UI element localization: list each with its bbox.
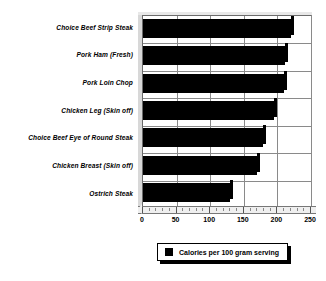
x-axis-minor-tick (256, 208, 257, 211)
x-axis-tick-label: 100 (203, 216, 215, 223)
x-axis-minor-tick (169, 208, 170, 211)
x-axis-tick-label: 200 (271, 216, 283, 223)
x-axis-minor-tick (196, 208, 197, 211)
x-axis-minor-tick (270, 208, 271, 211)
x-axis-tick-label: 250 (304, 216, 316, 223)
bar (143, 156, 257, 175)
plot-area-wrapper (138, 12, 316, 212)
x-axis-minor-tick (149, 208, 150, 211)
plot-area (142, 15, 312, 209)
category-label: Choice Beef Strip Steak (0, 14, 137, 42)
x-axis-minor-tick (263, 208, 264, 211)
bar-series (143, 16, 311, 208)
gridline (311, 16, 312, 208)
category-label: Ostrich Steak (0, 180, 137, 208)
category-label: Chicken Leg (Skin off) (0, 97, 137, 125)
category-label: Chicken Breast (Skin off) (0, 153, 137, 181)
x-axis-tick (176, 207, 177, 213)
x-axis-minor-tick (216, 208, 217, 211)
x-axis-minor-tick (202, 208, 203, 211)
bar (143, 101, 274, 120)
category-label: Pork Loin Chop (0, 69, 137, 97)
bar (143, 128, 263, 147)
x-axis-minor-tick (290, 208, 291, 211)
x-axis-minor-tick (155, 208, 156, 211)
bar (143, 183, 230, 202)
bar-chart: Choice Beef Strip Steak Pork Ham (Fresh)… (0, 0, 326, 281)
x-axis-minor-tick (250, 208, 251, 211)
x-axis-tick (243, 207, 244, 213)
legend-label: Calories per 100 gram serving (179, 249, 279, 256)
x-axis-minor-tick (162, 208, 163, 211)
x-axis-minor-tick (229, 208, 230, 211)
bar (143, 19, 291, 38)
x-axis-tick (142, 207, 143, 213)
category-label: Pork Ham (Fresh) (0, 42, 137, 70)
x-axis-tick-label: 0 (140, 216, 144, 223)
x-axis-minor-tick (303, 208, 304, 211)
category-label: Choice Beef Eye of Round Steak (0, 125, 137, 153)
x-axis-tick (209, 207, 210, 213)
legend-swatch-icon (165, 248, 173, 256)
x-axis-tick-label: 50 (172, 216, 180, 223)
bar (143, 46, 285, 65)
x-axis-minor-tick (297, 208, 298, 211)
x-axis-minor-tick (182, 208, 183, 211)
x-axis-minor-tick (223, 208, 224, 211)
x-axis-minor-tick (236, 208, 237, 211)
x-axis-tick (276, 207, 277, 213)
category-axis-labels: Choice Beef Strip Steak Pork Ham (Fresh)… (0, 14, 137, 208)
x-axis-tick-labels: 050100150200250 (138, 216, 323, 228)
x-axis-tick (310, 207, 311, 213)
x-axis-minor-tick (189, 208, 190, 211)
x-axis-tick-label: 150 (237, 216, 249, 223)
x-axis-minor-tick (283, 208, 284, 211)
legend: Calories per 100 gram serving (157, 243, 288, 261)
bar (143, 74, 284, 93)
